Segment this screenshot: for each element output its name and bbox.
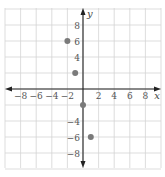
axes [5,8,161,168]
y-tick-label: 4 [74,53,80,63]
x-tick-label: −4 [45,91,59,101]
y-axis-arrow-down-icon [81,161,86,168]
x-tick-label: 6 [127,91,133,101]
x-tick-label: 8 [143,91,149,101]
y-tick-label: 6 [74,37,80,47]
data-point [72,70,78,76]
y-tick-label: −6 [67,133,81,143]
y-tick-label: −4 [67,117,81,127]
x-tick-label: 4 [111,91,117,101]
y-tick-label: 8 [74,21,80,31]
x-tick-label: −2 [61,91,74,101]
y-tick-label: −8 [67,149,81,159]
x-tick-label: −8 [14,91,28,101]
data-point [80,102,86,108]
x-axis-label: x [154,90,160,101]
y-axis-label: y [86,8,93,19]
data-point [64,38,70,44]
x-tick-label: −6 [30,91,44,101]
x-axis-arrow-left-icon [5,87,12,92]
x-tick-label: 2 [96,91,102,101]
data-point [88,134,94,140]
coordinate-plane: −8−6−4−22468864−4−6−8 x y [0,0,165,177]
